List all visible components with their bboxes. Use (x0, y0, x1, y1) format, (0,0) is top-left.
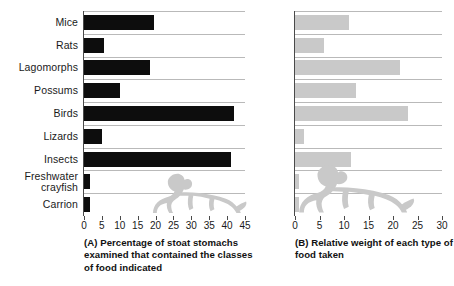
bar (295, 152, 351, 167)
x-tick-label: 35 (204, 220, 215, 232)
x-tick-label: 25 (168, 220, 179, 232)
category-label: Carrion (43, 199, 78, 210)
row-gridline (295, 102, 442, 103)
bar (295, 15, 349, 30)
bar (84, 38, 104, 53)
category-label: Rats (56, 40, 78, 51)
x-tick-label: 30 (436, 220, 447, 232)
row-gridline (84, 170, 245, 171)
bar (84, 152, 231, 167)
x-tick-label: 0 (292, 220, 298, 232)
category-labels-a: MiceRatsLagomorphsPossumsBirdsLizardsIns… (0, 11, 78, 216)
x-tick-label: 25 (412, 220, 423, 232)
x-tick-label: 15 (363, 220, 374, 232)
x-axis-ticks-a: 051015202530354045 (84, 216, 245, 234)
category-label: Insects (44, 154, 78, 165)
row-gridline (84, 57, 245, 58)
category-label: Lizards (43, 131, 78, 142)
row-gridline (84, 79, 245, 80)
bar (84, 106, 234, 121)
bar (295, 174, 299, 189)
x-tick-label: 15 (132, 220, 143, 232)
row-gridline (295, 57, 442, 58)
bar (295, 106, 408, 121)
x-tick-label: 10 (338, 220, 349, 232)
x-tick-label: 5 (99, 220, 105, 232)
x-tick-label: 0 (81, 220, 87, 232)
row-gridline (84, 11, 245, 12)
plot-area-a (84, 11, 245, 216)
row-gridline (84, 125, 245, 126)
category-label: Possums (34, 85, 78, 96)
bar (84, 197, 90, 212)
x-tick-label: 20 (150, 220, 161, 232)
row-gridline (295, 34, 442, 35)
x-tick-label: 40 (222, 220, 233, 232)
x-tick-label: 20 (387, 220, 398, 232)
row-gridline (295, 125, 442, 126)
stoat-diet-figure: MiceRatsLagomorphsPossumsBirdsLizardsIns… (0, 0, 454, 286)
bar (84, 129, 102, 144)
x-tick-label: 5 (317, 220, 323, 232)
row-gridline (84, 34, 245, 35)
bar (295, 60, 400, 75)
x-tick-label: 45 (239, 220, 250, 232)
category-label: Birds (54, 108, 78, 119)
x-axis-ticks-b: 051015202530 (295, 216, 442, 234)
panel-b-caption: (B) Relative weight of each type of food… (295, 237, 454, 262)
row-gridline (84, 102, 245, 103)
row-gridline (295, 148, 442, 149)
x-tick-label: 10 (114, 220, 125, 232)
bar (295, 83, 356, 98)
bar (84, 15, 154, 30)
category-label: Mice (55, 17, 78, 28)
x-tick-label: 30 (186, 220, 197, 232)
row-gridline (295, 79, 442, 80)
category-label: Lagomorphs (19, 62, 78, 73)
bar (84, 83, 120, 98)
plot-area-b (295, 11, 442, 216)
category-label: Freshwater crayfish (24, 171, 78, 193)
row-gridline (84, 193, 245, 194)
bar (295, 197, 299, 212)
panel-a: MiceRatsLagomorphsPossumsBirdsLizardsIns… (0, 0, 250, 286)
panel-a-caption: (A) Percentage of stoat stomachs examine… (84, 237, 254, 274)
row-gridline (84, 148, 245, 149)
row-gridline (295, 193, 442, 194)
bar (84, 60, 150, 75)
row-gridline (295, 11, 442, 12)
bar (295, 38, 324, 53)
bar (84, 174, 90, 189)
panel-b: 051015202530 (B) Relative weight of each… (250, 0, 454, 286)
bar (295, 129, 304, 144)
row-gridline (295, 170, 442, 171)
